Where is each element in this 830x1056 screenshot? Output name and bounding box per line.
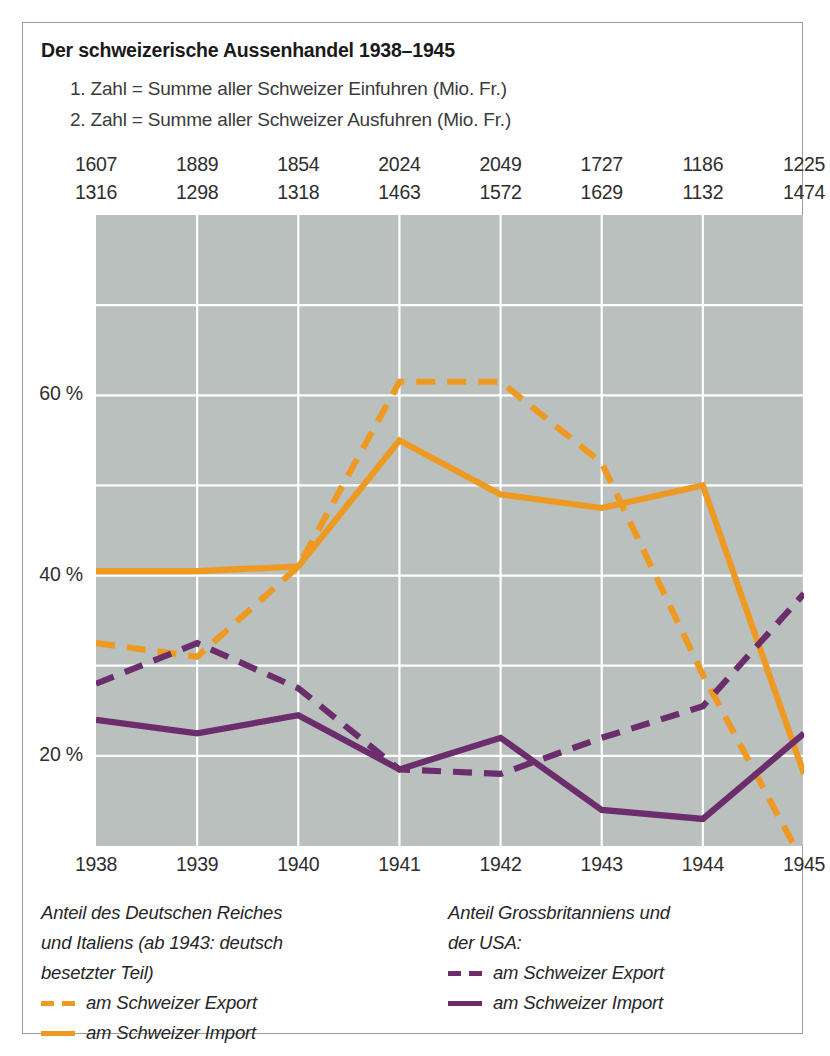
- chart-card: Der schweizerische Aussenhandel 1938–194…: [22, 22, 803, 1034]
- legend-germany-italy-heading-line-2: besetzter Teil): [41, 958, 441, 988]
- legend-germany-italy-swatch-solid-icon: [41, 1031, 75, 1036]
- x-tick-1942: 1942: [456, 853, 546, 876]
- legend-germany-italy-label-0: am Schweizer Export: [86, 988, 257, 1018]
- subtitle-imports: 1. Zahl = Summe aller Schweizer Einfuhre…: [70, 78, 507, 100]
- series-line-3: [96, 715, 804, 819]
- y-tick-40: 40 %: [39, 563, 83, 586]
- legend-germany-italy-heading-line-0: Anteil des Deutschen Reiches: [41, 898, 441, 928]
- legend-uk-usa-swatch-dashed-icon: [448, 971, 482, 976]
- import-total-1944: 1186: [658, 153, 748, 176]
- x-tick-1943: 1943: [557, 853, 647, 876]
- y-tick-20: 20 %: [39, 743, 83, 766]
- legend-uk-usa-swatch-solid-icon: [448, 1001, 482, 1006]
- x-tick-1939: 1939: [152, 853, 242, 876]
- legend-germany-italy: Anteil des Deutschen Reichesund Italiens…: [41, 898, 441, 1048]
- import-total-1943: 1727: [557, 153, 647, 176]
- export-total-1939: 1298: [152, 181, 242, 204]
- legend-germany-italy-entry-0[interactable]: am Schweizer Export: [41, 988, 441, 1018]
- export-total-1943: 1629: [557, 181, 647, 204]
- export-total-1945: 1474: [759, 181, 830, 204]
- x-tick-1940: 1940: [253, 853, 343, 876]
- import-total-1942: 2049: [456, 153, 546, 176]
- x-axis-labels: 19381939194019411942194319441945: [96, 853, 804, 883]
- subtitle-exports: 2. Zahl = Summe aller Schweizer Ausfuhre…: [70, 109, 511, 131]
- legend-germany-italy-swatch-dashed-icon: [41, 1001, 75, 1006]
- page-title: Der schweizerische Aussenhandel 1938–194…: [41, 39, 455, 62]
- chart-lines: [96, 215, 804, 846]
- export-total-1944: 1132: [658, 181, 748, 204]
- x-tick-1941: 1941: [354, 853, 444, 876]
- import-total-1939: 1889: [152, 153, 242, 176]
- series-line-0: [96, 382, 804, 846]
- legend-uk-usa-label-1: am Schweizer Import: [493, 988, 663, 1018]
- import-total-1940: 1854: [253, 153, 343, 176]
- x-tick-1938: 1938: [51, 853, 141, 876]
- export-total-1941: 1463: [354, 181, 444, 204]
- legend-uk-usa-heading-line-0: Anteil Grossbritanniens und: [448, 898, 798, 928]
- export-total-1940: 1318: [253, 181, 343, 204]
- series-line-1: [96, 440, 804, 774]
- legend-uk-usa: Anteil Grossbritanniens undder USA:am Sc…: [448, 898, 798, 1018]
- import-total-1938: 1607: [51, 153, 141, 176]
- series-line-2: [96, 594, 804, 774]
- export-total-1942: 1572: [456, 181, 546, 204]
- legend-germany-italy-heading-line-1: und Italiens (ab 1943: deutsch: [41, 928, 441, 958]
- legend-uk-usa-label-0: am Schweizer Export: [493, 958, 664, 988]
- export-total-1938: 1316: [51, 181, 141, 204]
- legend-uk-usa-heading-line-1: der USA:: [448, 928, 798, 958]
- legend-uk-usa-entry-0[interactable]: am Schweizer Export: [448, 958, 798, 988]
- import-totals-row: 16071889185420242049172711861225: [23, 153, 804, 181]
- x-tick-1944: 1944: [658, 853, 748, 876]
- import-total-1941: 2024: [354, 153, 444, 176]
- import-total-1945: 1225: [759, 153, 830, 176]
- y-tick-60: 60 %: [39, 382, 83, 405]
- x-tick-1945: 1945: [759, 853, 830, 876]
- legend-germany-italy-label-1: am Schweizer Import: [86, 1018, 256, 1048]
- annotation-number-rows: 16071889185420242049172711861225 1316129…: [23, 153, 804, 213]
- plot-area: [96, 215, 804, 846]
- legend-germany-italy-entry-1[interactable]: am Schweizer Import: [41, 1018, 441, 1048]
- export-totals-row: 13161298131814631572162911321474: [23, 181, 804, 209]
- y-axis-labels: 60 %40 %20 %: [23, 215, 91, 846]
- legend-uk-usa-entry-1[interactable]: am Schweizer Import: [448, 988, 798, 1018]
